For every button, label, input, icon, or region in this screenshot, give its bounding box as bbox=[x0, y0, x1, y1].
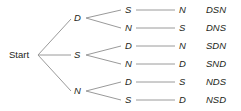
level2-node: S bbox=[125, 95, 131, 105]
root-node-start: Start bbox=[9, 50, 29, 60]
edge-s-n bbox=[86, 55, 121, 64]
level3-node: N bbox=[179, 5, 186, 15]
level3-node: S bbox=[179, 77, 185, 87]
level3-node: N bbox=[179, 41, 186, 51]
level1-node-s: S bbox=[74, 50, 80, 60]
level3-node: S bbox=[179, 23, 185, 33]
edge-start-d bbox=[38, 19, 71, 55]
outcome-code: SND bbox=[206, 59, 226, 69]
edge-d-n bbox=[86, 18, 121, 28]
level2-node: S bbox=[125, 5, 131, 15]
level3-node: D bbox=[179, 59, 186, 69]
edge-n-s bbox=[86, 91, 121, 100]
edge-d-s bbox=[86, 10, 121, 18]
outcome-code: SDN bbox=[206, 41, 226, 51]
outcome-code: NDS bbox=[206, 77, 226, 87]
edge-n-d bbox=[86, 82, 121, 91]
level2-node: N bbox=[125, 23, 132, 33]
level2-node: N bbox=[125, 59, 132, 69]
outcome-code: DSN bbox=[206, 5, 226, 15]
edge-s-d bbox=[86, 46, 121, 55]
level3-node: D bbox=[179, 95, 186, 105]
level2-node: D bbox=[125, 41, 132, 51]
outcome-code: DNS bbox=[206, 23, 226, 33]
edge-start-n bbox=[38, 55, 71, 91]
level2-node: D bbox=[125, 77, 132, 87]
level1-node-d: D bbox=[74, 13, 81, 23]
outcome-code: NSD bbox=[206, 95, 226, 105]
level1-node-n: N bbox=[74, 86, 81, 96]
tree-lines bbox=[0, 0, 241, 111]
